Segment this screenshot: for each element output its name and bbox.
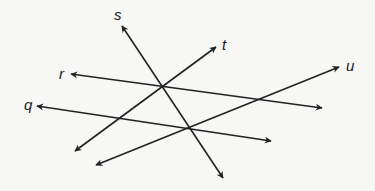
line-label-r: r [59,65,65,82]
line-label-s: s [114,6,122,23]
lines-diagram: strqu [0,0,375,191]
line-label-q: q [24,96,33,113]
line-r [71,74,322,108]
line-label-t: t [222,36,227,53]
line-label-u: u [346,57,355,74]
line-q [37,106,271,141]
line-s [122,26,223,178]
geometry-figure: strqu [0,0,375,191]
